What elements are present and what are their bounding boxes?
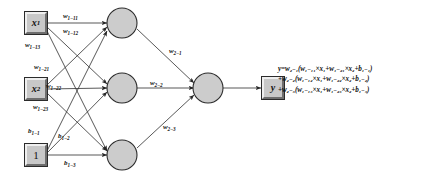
edge-h1-o1: [137, 29, 194, 83]
w1-13-subscript: 1−13: [30, 44, 41, 50]
w1-23-subscript: 1−23: [38, 106, 49, 112]
equation-line-2: +w₂₋₂(w₁₋₁₂×x₁+w₁₋₂₂×x₂+b₁₋₂): [278, 74, 428, 84]
neural-network-diagram: x1 x2 1 y w1−11 w1−12 w1−13 w1−21 w1−22 …: [0, 0, 430, 179]
edge-label-w1-11: w1−11: [63, 13, 78, 21]
edge-label-b1-2: b1−2: [58, 133, 69, 141]
input-box-bias: 1: [25, 144, 47, 166]
edge-label-w2-1: w2−1: [169, 48, 182, 56]
equation-line-1: y=w₂₋₁(w₁₋₁₁×x₁+w₁₋₂₁×x₂+b₁₋₁): [278, 64, 428, 74]
edge-label-w2-3: w2−3: [163, 124, 176, 132]
hidden-node-2: [107, 73, 137, 103]
hidden-node-1: [107, 8, 137, 38]
edge-label-b1-3: b1−3: [64, 160, 75, 168]
w1-11-subscript: 1−11: [68, 15, 78, 21]
equation-line-3: +w₂₋₃(w₁₋₁₃×x₁+w₁₋₂₃×x₂+b₁₋₃): [278, 85, 428, 95]
w1-21-subscript: 1−21: [39, 66, 50, 72]
output-equation: y=w₂₋₁(w₁₋₁₁×x₁+w₁₋₂₁×x₂+b₁₋₁) +w₂₋₂(w₁₋…: [278, 64, 428, 95]
input-x1-subscript: 1: [37, 20, 41, 27]
b1-2-subscript: 1−2: [61, 135, 69, 141]
input-bias-base: 1: [33, 150, 39, 161]
w2-2-subscript: 2−2: [155, 82, 163, 88]
output-node: [193, 73, 223, 103]
edge-label-w1-13: w1−13: [25, 42, 40, 50]
edge-h3-o1: [137, 95, 194, 148]
edge-label-w1-21: w1−21: [34, 64, 49, 72]
w1-22-subscript: 1−22: [51, 85, 62, 91]
input-x2-subscript: 2: [37, 86, 41, 93]
edge-label-w2-2: w2−2: [150, 80, 163, 88]
input-box-x2: x2: [25, 78, 47, 100]
w2-1-subscript: 2−1: [174, 50, 182, 56]
edge-label-b1-1: b1−1: [28, 128, 39, 136]
input-box-x1: x1: [25, 12, 47, 34]
output-y-base: y: [271, 83, 275, 93]
edge-label-w1-23: w1−23: [33, 104, 48, 112]
edge-label-w1-22: w1−22: [46, 83, 61, 91]
b1-1-subscript: 1−1: [31, 130, 39, 136]
w2-3-subscript: 2−3: [168, 126, 176, 132]
hidden-node-3: [107, 140, 137, 170]
w1-12-subscript: 1−12: [68, 30, 79, 36]
b1-3-subscript: 1−3: [67, 162, 75, 168]
hidden-layer-nodes: [107, 8, 137, 170]
edge-label-w1-12: w1−12: [63, 28, 78, 36]
